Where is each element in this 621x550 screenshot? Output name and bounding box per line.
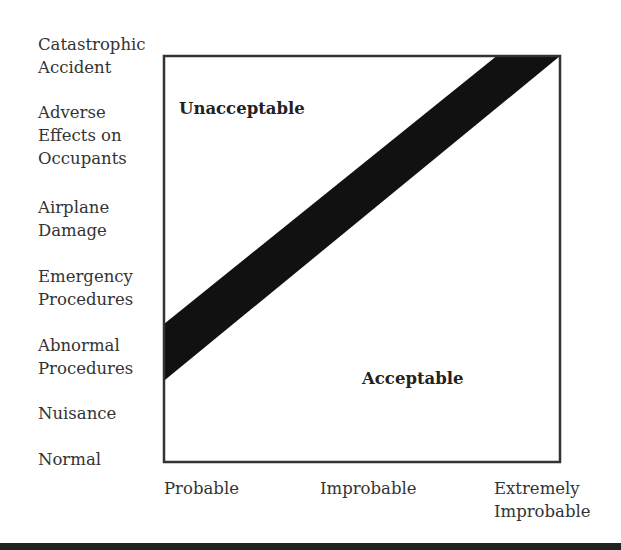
y-label-airplane-damage: Airplane Damage: [38, 196, 109, 242]
bottom-rule: [0, 543, 621, 550]
y-label-line: Effects on: [38, 124, 127, 147]
y-label-line: Emergency: [38, 265, 133, 288]
y-label-line: Abnormal: [38, 334, 133, 357]
x-label-probable: Probable: [164, 477, 239, 500]
y-label-line: Occupants: [38, 147, 127, 170]
x-label-line: Improbable: [494, 500, 591, 523]
x-label-line: Probable: [164, 477, 239, 500]
y-label-line: Damage: [38, 219, 109, 242]
y-label-catastrophic-accident: Catastrophic Accident: [38, 33, 146, 79]
y-label-nuisance: Nuisance: [38, 402, 116, 425]
y-label-normal: Normal: [38, 448, 101, 471]
y-label-line: Accident: [38, 56, 146, 79]
y-label-line: Nuisance: [38, 402, 116, 425]
y-label-line: Procedures: [38, 357, 133, 380]
x-label-extremely-improbable: Extremely Improbable: [494, 477, 591, 523]
y-label-line: Adverse: [38, 101, 127, 124]
x-label-line: Extremely: [494, 477, 591, 500]
x-label-improbable: Improbable: [320, 477, 417, 500]
x-label-line: Improbable: [320, 477, 417, 500]
region-label-unacceptable: Unacceptable: [179, 99, 305, 118]
y-label-line: Catastrophic: [38, 33, 146, 56]
y-label-line: Airplane: [38, 196, 109, 219]
region-label-acceptable: Acceptable: [362, 369, 464, 388]
y-label-emergency-procedures: Emergency Procedures: [38, 265, 133, 311]
y-label-abnormal-procedures: Abnormal Procedures: [38, 334, 133, 380]
y-label-line: Procedures: [38, 288, 133, 311]
y-label-adverse-effects: Adverse Effects on Occupants: [38, 101, 127, 170]
y-label-line: Normal: [38, 448, 101, 471]
